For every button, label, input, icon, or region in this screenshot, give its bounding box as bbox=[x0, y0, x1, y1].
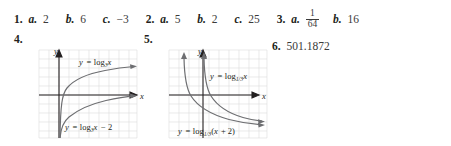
graph-5-svg: y x y = log1/3x y = log1/3(x + 2) bbox=[163, 46, 279, 142]
answer-row-1: 1. a. 2 b. 6 c. −3 2. a. 5 b. 2 c. 25 3.… bbox=[14, 6, 446, 30]
part-label-2a: a. bbox=[160, 13, 169, 25]
part-label-1c: c. bbox=[103, 13, 111, 25]
answer-group-2b: b. 2 bbox=[197, 7, 217, 31]
x-axis-label: x bbox=[261, 91, 266, 101]
answer-value-6: 501.1872 bbox=[287, 40, 330, 52]
answer-group-1: 1. a. 2 bbox=[14, 7, 49, 31]
part-label-3b: b. bbox=[333, 13, 342, 25]
y-axis-label: y bbox=[197, 46, 202, 56]
answer-group-6: 6. 501.1872 bbox=[272, 40, 330, 52]
graph-figure-5: y x y = log1/3x y = log1/3(x + 2) bbox=[163, 46, 279, 142]
svg-text:y = log3x − 2: y = log3x − 2 bbox=[64, 122, 112, 133]
answer-value-1b: 6 bbox=[80, 13, 86, 25]
figure-number-5: 5. bbox=[144, 33, 153, 45]
answer-group-3b: b. 16 bbox=[333, 7, 359, 31]
question-number-1: 1. bbox=[14, 13, 23, 25]
figure-number-4: 4. bbox=[14, 33, 23, 45]
graph-4-svg: y x y = log3x y = log3x − 2 bbox=[33, 46, 149, 142]
part-label-1b: b. bbox=[66, 13, 75, 25]
graph-figure-4: y x y = log3x y = log3x − 2 bbox=[33, 46, 149, 142]
answer-group-2c: c. 25 bbox=[234, 7, 259, 31]
part-label-1a: a. bbox=[29, 13, 38, 25]
answer-value-2b: 2 bbox=[212, 13, 218, 25]
part-label-3a: a. bbox=[291, 13, 300, 25]
x-axis-label: x bbox=[139, 91, 144, 101]
answer-value-2a: 5 bbox=[175, 13, 181, 25]
answer-group-3: 3. a. 1 64 bbox=[277, 7, 320, 31]
part-label-2c: c. bbox=[234, 13, 242, 25]
answer-value-2c: 25 bbox=[248, 13, 260, 25]
fraction-numerator: 1 bbox=[306, 9, 320, 19]
answer-group-2: 2. a. 5 bbox=[146, 7, 181, 31]
fraction-3a: 1 64 bbox=[306, 9, 320, 30]
answer-group-1c: c. −3 bbox=[103, 7, 129, 31]
y-axis-label: y bbox=[53, 46, 58, 56]
question-number-2: 2. bbox=[146, 13, 155, 25]
part-label-2b: b. bbox=[197, 13, 206, 25]
fraction-denominator: 64 bbox=[306, 19, 320, 30]
answer-group-1b: b. 6 bbox=[66, 7, 86, 31]
answer-value-3b: 16 bbox=[348, 13, 360, 25]
answer-value-1c: −3 bbox=[117, 13, 129, 25]
answer-value-1a: 2 bbox=[43, 13, 49, 25]
curve-label-log3x-minus-2: y = log3x − 2 bbox=[64, 122, 112, 133]
question-number-3: 3. bbox=[277, 13, 286, 25]
